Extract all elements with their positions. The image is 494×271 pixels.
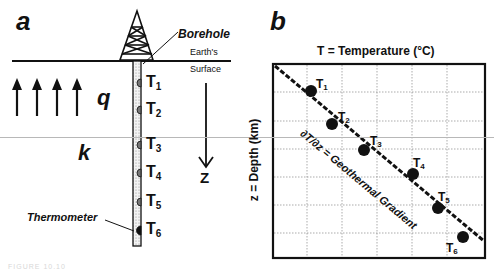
point-label-t3: T3 [370, 134, 382, 149]
panel-b-label: b [270, 6, 286, 37]
derrick-icon [120, 11, 153, 60]
heat-flow-arrows [12, 78, 82, 116]
arrow-up-icon [72, 78, 82, 90]
point-label-t6: T6 [446, 241, 458, 256]
thermometer-index: 2 [156, 108, 162, 119]
borehole [133, 61, 141, 246]
point-label-t2: T2 [338, 110, 350, 125]
thermometer-6-label: T6 [146, 220, 161, 239]
thermometer-index: 4 [156, 171, 162, 182]
depth-axis-symbol: Z [200, 169, 209, 186]
thermometer-4-label: T4 [146, 163, 161, 182]
point-label-t4: T4 [413, 156, 425, 171]
depth-arrow [199, 83, 213, 167]
borehole-label: Borehole [178, 27, 230, 41]
thermometer-index: 3 [156, 143, 162, 154]
thermometer-name: T [146, 100, 156, 117]
arrow-up-icon [52, 78, 62, 90]
thermometer-3-label: T3 [146, 135, 161, 154]
thermometer-label: Thermometer [27, 211, 97, 223]
thermometer-name: T [146, 192, 156, 209]
point-index: 6 [453, 247, 457, 256]
surface-label-line2: Surface [190, 64, 221, 74]
data-point-t2 [326, 118, 338, 130]
figure-caption: FIGURE 10.10 [8, 263, 66, 270]
thermometer-1-label: T1 [146, 73, 161, 92]
arrow-up-icon [32, 78, 42, 90]
thermometer-index: 1 [156, 81, 162, 92]
point-index: 3 [377, 140, 381, 149]
point-label-t1: T1 [316, 77, 328, 92]
arrow-up-icon [12, 78, 22, 90]
surface-label-line1: Earth's [190, 47, 218, 57]
data-point-t6 [457, 231, 469, 243]
conductivity-symbol: k [78, 140, 90, 166]
data-points [305, 85, 469, 243]
thermometer-index: 5 [156, 200, 162, 211]
chart-frame [273, 64, 485, 258]
heat-flow-symbol: q [97, 85, 110, 111]
thermometer-name: T [146, 220, 156, 237]
x-axis-title: T = Temperature (°C) [317, 44, 435, 58]
point-index: 2 [345, 116, 349, 125]
chart-grid [274, 65, 484, 257]
thermometer-leader-line [105, 220, 134, 231]
thermometer-index: 6 [156, 228, 162, 239]
thermometer-2-label: T2 [146, 100, 161, 119]
point-label-t5: T5 [438, 190, 450, 205]
thermometer-name: T [146, 135, 156, 152]
data-point-t3 [358, 144, 370, 156]
point-index: 5 [445, 196, 449, 205]
y-axis-title: z = Depth (km) [247, 119, 261, 201]
panel-a-label: a [16, 6, 30, 37]
thermometer-name: T [146, 163, 156, 180]
thermometer-name: T [146, 73, 156, 90]
thermometer-5-label: T5 [146, 192, 161, 211]
point-index: 4 [420, 162, 424, 171]
point-index: 1 [323, 83, 327, 92]
